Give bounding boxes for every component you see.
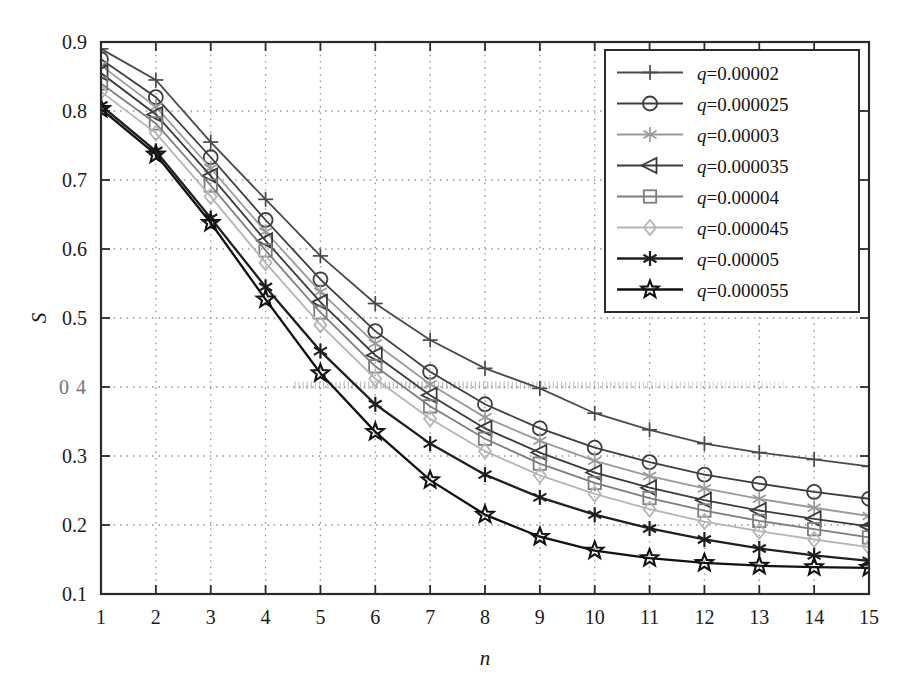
figure-container: 1234567891011121314150.10.20.30 40.50.60… xyxy=(0,0,909,690)
data-point-marker-asterisk-bold xyxy=(479,467,492,482)
y-tick-label: 0 4 xyxy=(59,376,87,398)
x-tick-label: 11 xyxy=(640,606,659,628)
data-point-marker-plus xyxy=(423,333,438,348)
data-point-marker-plus xyxy=(642,422,657,437)
x-tick-label: 6 xyxy=(370,606,380,628)
legend-box xyxy=(605,50,859,312)
y-tick-label: 0.1 xyxy=(62,583,87,605)
legend-label: q=0.000055 xyxy=(697,280,788,301)
data-point-marker-plus xyxy=(752,445,767,460)
legend-label: q=0.00002 xyxy=(697,63,779,84)
data-point-marker-plus xyxy=(587,406,602,421)
data-point-marker-plus xyxy=(478,361,493,376)
y-tick-label: 0.7 xyxy=(62,169,87,191)
legend-label: q=0.00005 xyxy=(697,249,779,270)
data-point-marker-plus xyxy=(697,436,712,451)
x-tick-label: 10 xyxy=(585,606,605,628)
legend[interactable]: q=0.00002q=0.000025q=0.00003q=0.000035q=… xyxy=(605,50,859,312)
legend-label: q=0.00003 xyxy=(697,125,779,146)
y-tick-label: 0.5 xyxy=(62,307,87,329)
x-tick-label: 12 xyxy=(694,606,714,628)
legend-label: q=0.00004 xyxy=(697,187,779,208)
y-tick-label: 0.2 xyxy=(62,514,87,536)
y-axis-label: S xyxy=(27,312,51,323)
x-tick-label: 15 xyxy=(859,606,879,628)
x-tick-label: 1 xyxy=(96,606,106,628)
y-tick-label: 0.8 xyxy=(62,100,87,122)
x-tick-label: 8 xyxy=(480,606,490,628)
x-tick-label: 2 xyxy=(151,606,161,628)
legend-label: q=0.000045 xyxy=(697,218,788,239)
legend-label: q=0.000035 xyxy=(697,156,788,177)
x-tick-label: 3 xyxy=(206,606,216,628)
line-chart: 1234567891011121314150.10.20.30 40.50.60… xyxy=(0,0,909,690)
x-tick-label: 5 xyxy=(315,606,325,628)
y-tick-label: 0.9 xyxy=(62,31,87,53)
x-axis-label: n xyxy=(480,646,491,670)
x-tick-label: 7 xyxy=(425,606,435,628)
y-tick-label: 0.6 xyxy=(62,238,87,260)
data-point-marker-asterisk-bold xyxy=(533,490,546,505)
data-point-marker-plus xyxy=(807,452,822,467)
data-point-marker-asterisk-bold xyxy=(424,436,437,451)
x-tick-label: 14 xyxy=(804,606,824,628)
x-tick-label: 9 xyxy=(535,606,545,628)
legend-label: q=0.000025 xyxy=(697,94,788,115)
x-tick-label: 4 xyxy=(261,606,271,628)
x-tick-label: 13 xyxy=(749,606,769,628)
y-tick-label: 0.3 xyxy=(62,445,87,467)
